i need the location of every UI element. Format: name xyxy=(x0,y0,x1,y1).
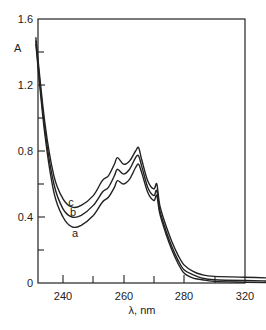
y-axis-title: A xyxy=(14,42,22,54)
plot-frame xyxy=(38,19,245,283)
y-tick-label: 1.6 xyxy=(18,13,33,25)
x-ticks xyxy=(63,275,215,283)
curve-a xyxy=(36,44,266,283)
curve-c xyxy=(36,37,266,278)
x-tick-label: 320 xyxy=(236,290,254,302)
x-tick-label: 240 xyxy=(54,290,72,302)
curve-label-a: a xyxy=(72,227,79,239)
spectrum-curves xyxy=(36,37,266,283)
x-tick-label: 260 xyxy=(115,290,133,302)
curve-label-b: b xyxy=(70,206,76,218)
y-tick-label: 1.2 xyxy=(18,79,33,91)
y-tick-label: 0.4 xyxy=(18,211,33,223)
absorbance-chart: 1.6 1.2 0.8 0.4 0 240 260 280 320 A λ, n… xyxy=(0,0,266,330)
x-axis-title: λ, nm xyxy=(129,304,156,316)
y-tick-label: 0.8 xyxy=(18,145,33,157)
y-tick-label: 0 xyxy=(27,277,33,289)
x-tick-label: 280 xyxy=(175,290,193,302)
curve-b xyxy=(36,41,266,282)
